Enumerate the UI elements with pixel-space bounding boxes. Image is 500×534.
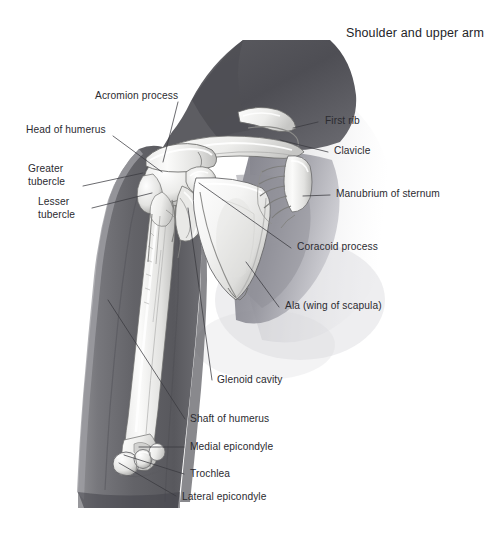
label-lateral-epicondyle: Lateral epicondyle bbox=[182, 491, 267, 503]
label-acromion-process: Acromion process bbox=[95, 90, 178, 102]
label-coracoid-process: Coracoid process bbox=[297, 241, 378, 253]
label-greater-tubercle-line2: tubercle bbox=[28, 176, 65, 189]
figure-title: Shoulder and upper arm bbox=[346, 26, 484, 40]
label-head-of-humerus: Head of humerus bbox=[26, 124, 106, 136]
label-medial-epicondyle: Medial epicondyle bbox=[190, 441, 273, 453]
label-greater-tubercle-line1: Greater bbox=[28, 163, 65, 176]
label-manubrium-of-sternum: Manubrium of sternum bbox=[336, 188, 440, 200]
label-lesser-tubercle-line2: tubercle bbox=[38, 209, 75, 222]
figure-page: Shoulder and upper arm Acromion process … bbox=[0, 0, 500, 534]
label-clavicle: Clavicle bbox=[334, 145, 370, 157]
label-lesser-tubercle: Lesser tubercle bbox=[38, 196, 75, 221]
label-lesser-tubercle-line1: Lesser bbox=[38, 196, 75, 209]
anatomical-illustration bbox=[0, 0, 500, 534]
label-greater-tubercle: Greater tubercle bbox=[28, 163, 65, 188]
label-trochlea: Trochlea bbox=[190, 468, 230, 480]
label-first-rib: First rib bbox=[325, 115, 360, 127]
label-glenoid-cavity: Glenoid cavity bbox=[217, 374, 282, 386]
label-ala-wing-of-scapula: Ala (wing of scapula) bbox=[285, 300, 382, 312]
label-shaft-of-humerus: Shaft of humerus bbox=[190, 413, 269, 425]
